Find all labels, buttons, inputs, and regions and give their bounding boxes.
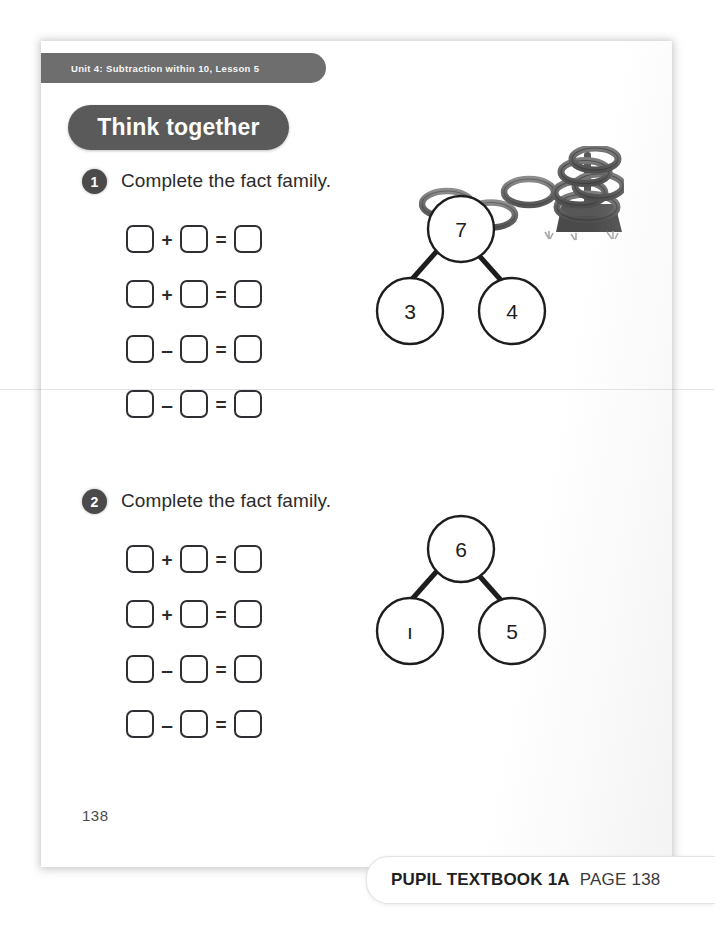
operator-symbol: + [154,550,180,569]
number-bond-2: 6 ı 5 [366,507,556,677]
equals-symbol: = [208,285,234,304]
question-2: 2 Complete the fact family. + = + = – [41,489,672,523]
answer-box[interactable] [126,655,154,683]
answer-box[interactable] [126,335,154,363]
bond-part-right-value: 4 [506,300,518,323]
footer-caption-page: PAGE 138 [580,870,661,890]
think-together-label: Think together [97,114,260,141]
equals-symbol: = [208,550,234,569]
question-2-heading: 2 Complete the fact family. [41,489,672,523]
equals-symbol: = [208,660,234,679]
answer-box[interactable] [234,280,262,308]
equation-row: – = [126,389,262,419]
answer-box[interactable] [234,390,262,418]
answer-box[interactable] [234,545,262,573]
footer-caption-title: PUPIL TEXTBOOK 1A [391,870,570,890]
answer-box[interactable] [234,335,262,363]
page-folio: 138 [82,807,109,824]
footer-caption: PUPIL TEXTBOOK 1A PAGE 138 [366,856,715,904]
equation-row: – = [126,334,262,364]
question-2-prompt: Complete the fact family. [121,490,331,512]
answer-box[interactable] [126,390,154,418]
equation-row: + = [126,279,262,309]
answer-box[interactable] [180,545,208,573]
unit-header-label: Unit 4: Subtraction within 10, Lesson 5 [71,63,259,74]
bond-whole-value: 6 [455,538,467,561]
answer-box[interactable] [234,600,262,628]
answer-box[interactable] [234,710,262,738]
bond-part-right-value: 5 [506,620,518,643]
answer-box[interactable] [234,655,262,683]
question-1-heading: 1 Complete the fact family. [41,169,672,203]
operator-symbol: – [154,339,180,360]
equation-row: + = [126,599,262,629]
equals-symbol: = [208,605,234,624]
bond-part-left-value: 3 [404,300,416,323]
answer-box[interactable] [180,600,208,628]
answer-box[interactable] [180,390,208,418]
answer-box[interactable] [234,225,262,253]
answer-box[interactable] [180,280,208,308]
equation-row: – = [126,654,262,684]
answer-box[interactable] [126,600,154,628]
equals-symbol: = [208,340,234,359]
question-1: 1 Complete the fact family. + = + = – [41,169,672,203]
question-1-equations: + = + = – = – [126,224,262,444]
answer-box[interactable] [180,710,208,738]
textbook-page-sheet: Unit 4: Subtraction within 10, Lesson 5 … [41,41,672,867]
answer-box[interactable] [180,335,208,363]
question-1-prompt: Complete the fact family. [121,170,331,192]
unit-header-strip: Unit 4: Subtraction within 10, Lesson 5 [41,53,326,83]
answer-box[interactable] [126,225,154,253]
number-bond-1: 7 3 4 [366,187,556,357]
bond-part-left-value: ı [407,620,413,643]
think-together-banner: Think together [68,105,289,150]
bond-whole-value: 7 [455,218,467,241]
equation-row: – = [126,709,262,739]
operator-symbol: + [154,605,180,624]
question-2-number-badge: 2 [82,489,107,514]
equation-row: + = [126,544,262,574]
question-1-number-badge: 1 [82,169,107,194]
equation-row: + = [126,224,262,254]
operator-symbol: + [154,230,180,249]
operator-symbol: – [154,394,180,415]
answer-box[interactable] [126,280,154,308]
operator-symbol: – [154,659,180,680]
answer-box[interactable] [126,710,154,738]
answer-box[interactable] [180,225,208,253]
operator-symbol: + [154,285,180,304]
question-2-equations: + = + = – = – [126,544,262,764]
equals-symbol: = [208,230,234,249]
equals-symbol: = [208,715,234,734]
operator-symbol: – [154,714,180,735]
answer-box[interactable] [126,545,154,573]
equals-symbol: = [208,395,234,414]
answer-box[interactable] [180,655,208,683]
